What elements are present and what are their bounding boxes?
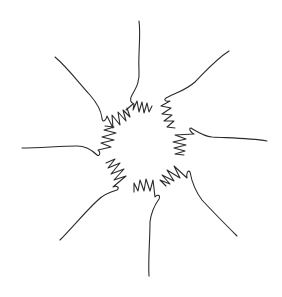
hand-top-right-icon bbox=[161, 51, 229, 128]
hand-left-icon bbox=[22, 126, 116, 155]
hand-bottom-right-icon bbox=[160, 166, 237, 236]
hand-bottom-icon bbox=[134, 179, 160, 276]
hand-top-icon bbox=[126, 21, 152, 113]
hand-right-icon bbox=[173, 128, 267, 155]
hands-circle-illustration bbox=[0, 0, 282, 297]
hand-bottom-left-icon bbox=[60, 159, 126, 240]
hand-top-left-icon bbox=[55, 57, 130, 128]
